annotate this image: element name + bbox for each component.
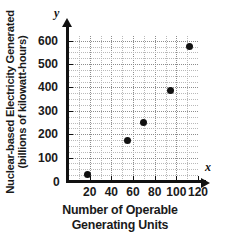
- x-axis-title: Number of Operable Generating Units: [30, 203, 210, 233]
- x-axis-line: [66, 180, 206, 183]
- y-axis-tick-label: 100: [18, 151, 58, 165]
- x-axis-title-line-2: Generating Units: [30, 218, 210, 233]
- x-axis-title-line-1: Number of Operable: [30, 203, 210, 218]
- x-axis-tick: [111, 176, 112, 181]
- x-axis-tick: [198, 176, 199, 181]
- grid-line-horizontal: [68, 105, 198, 106]
- y-axis-variable-label: y: [54, 6, 59, 21]
- grid-line-horizontal: [68, 152, 198, 153]
- x-axis-tick: [176, 176, 177, 181]
- y-axis-tick: [68, 64, 73, 65]
- data-point: [186, 43, 193, 50]
- y-axis-tick-label: 200: [18, 127, 58, 141]
- grid-line-horizontal: [68, 82, 198, 83]
- grid-line-horizontal: [68, 52, 198, 53]
- x-axis-tick-label: 120: [178, 185, 218, 199]
- grid-line-horizontal: [68, 163, 198, 164]
- y-axis-tick: [68, 158, 73, 159]
- grid-line-horizontal: [68, 99, 198, 100]
- y-axis-arrow-icon: [62, 18, 72, 27]
- x-axis-variable-label: x: [205, 160, 211, 175]
- y-axis-tick: [68, 41, 73, 42]
- grid-line-horizontal: [68, 76, 198, 77]
- grid-line-horizontal: [68, 146, 198, 147]
- grid-line-horizontal: [68, 64, 198, 65]
- data-point: [84, 171, 91, 178]
- y-axis-line: [66, 26, 69, 183]
- x-axis-tick: [133, 176, 134, 181]
- grid-line-horizontal: [68, 41, 198, 42]
- origin-tick-label: 0: [53, 175, 60, 189]
- grid-line-horizontal: [68, 128, 198, 129]
- plot-area: y x: [68, 36, 198, 181]
- x-axis-tick: [155, 176, 156, 181]
- grid-line-horizontal: [68, 70, 198, 71]
- y-axis-title-line-1: Nuclear-based Electricity Generated: [4, 10, 16, 194]
- y-axis-tick: [68, 87, 73, 88]
- grid-line-horizontal: [68, 111, 198, 112]
- grid-line-horizontal: [68, 134, 198, 135]
- y-axis-tick-label: 300: [18, 104, 58, 118]
- grid-line-horizontal: [68, 158, 198, 159]
- grid-line-horizontal: [68, 58, 198, 59]
- y-axis-tick: [68, 134, 73, 135]
- grid-line-horizontal: [68, 123, 198, 124]
- grid-line-horizontal: [68, 47, 198, 48]
- scatter-chart-figure: Nuclear-based Electricity Generated (bil…: [0, 0, 226, 246]
- grid-line-horizontal: [68, 87, 198, 88]
- grid-lines: [68, 36, 198, 181]
- y-axis-title-line-2: (billions of kilowatt-hours): [16, 36, 28, 169]
- y-axis-tick: [68, 111, 73, 112]
- grid-line-horizontal: [68, 93, 198, 94]
- grid-line-horizontal: [68, 117, 198, 118]
- y-axis-tick-label: 600: [18, 34, 58, 48]
- y-axis-tick-label: 500: [18, 57, 58, 71]
- y-axis-title: Nuclear-based Electricity Generated (bil…: [0, 2, 37, 202]
- grid-line-horizontal: [68, 140, 198, 141]
- y-axis-tick-label: 400: [18, 80, 58, 94]
